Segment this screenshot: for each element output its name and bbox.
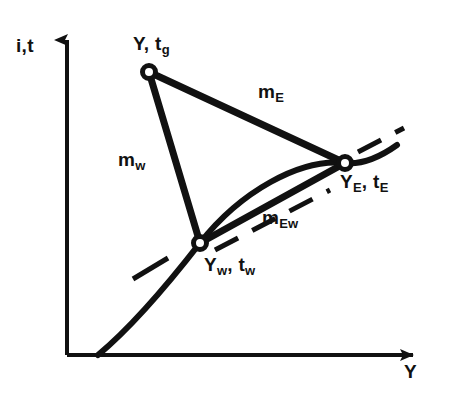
y-axis-label: i,t <box>16 36 34 55</box>
x-axis-label-text: Y <box>404 361 417 382</box>
edge-label-m-Ew: mEw <box>262 208 298 227</box>
edge-label-m-E: mE <box>258 82 284 101</box>
edge-label-m-Ew-base: m <box>262 207 279 228</box>
y-axis-label-text: i,t <box>16 35 34 56</box>
edge-label-m-E-base: m <box>258 81 275 102</box>
edge-m-w <box>149 72 200 243</box>
node-label-equilibrium-base: Y <box>340 171 353 192</box>
diagram-canvas: i,t Y Y, tg YE, tE Yw, tw mE mw mEw <box>0 0 451 394</box>
edge-m-E <box>149 72 345 163</box>
edge-label-m-w-base: m <box>118 149 135 170</box>
node-label-gas-sub: g <box>162 42 170 57</box>
edge-label-m-w-sub: w <box>135 158 145 173</box>
node-label-equilibrium-sub2: E <box>380 180 389 195</box>
node-label-equilibrium: YE, tE <box>340 172 389 191</box>
edge-label-m-Ew-sub: Ew <box>279 216 298 231</box>
node-label-equilibrium-base2: , t <box>362 171 380 192</box>
axis-group <box>67 40 413 355</box>
node-label-gas-base: Y, t <box>133 33 162 54</box>
node-label-gas: Y, tg <box>133 34 170 53</box>
x-axis-label: Y <box>404 362 417 381</box>
edge-m-Ew <box>200 163 345 243</box>
node-label-wetbulb-base: Y <box>204 254 217 275</box>
edge-label-m-E-sub: E <box>275 90 284 105</box>
node-label-wetbulb: Yw, tw <box>204 255 255 274</box>
node-label-wetbulb-sub2: w <box>245 263 255 278</box>
node-label-equilibrium-sub: E <box>353 180 362 195</box>
edge-label-m-w: mw <box>118 150 146 169</box>
node-label-wetbulb-base2: , t <box>227 254 245 275</box>
node-marker-wetbulb[interactable] <box>194 237 207 250</box>
diagram-svg <box>0 0 451 394</box>
node-marker-equilibrium[interactable] <box>339 157 352 170</box>
chord-tangent-dashed <box>133 258 168 279</box>
node-marker-gas[interactable] <box>143 66 156 79</box>
mixing-lines-group <box>149 72 345 243</box>
node-label-wetbulb-sub: w <box>217 263 227 278</box>
